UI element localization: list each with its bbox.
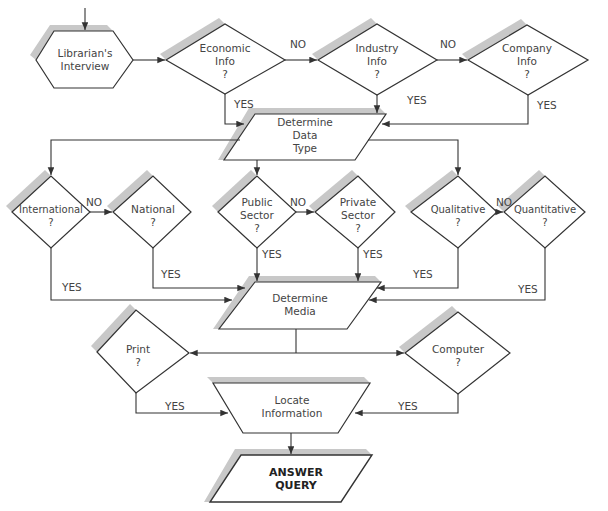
edge-no-international: NO — [86, 196, 102, 208]
edge-yes-private: YES — [363, 248, 383, 260]
edge-yes-international: YES — [62, 281, 82, 293]
edge-yes-public: YES — [262, 248, 282, 260]
locate-label: Locate Information — [252, 394, 332, 420]
data-type-label: Determine Data Type — [275, 116, 335, 155]
edge-yes-national: YES — [161, 268, 181, 280]
edge-yes-industry: YES — [407, 94, 427, 106]
national-label: National ? — [123, 203, 183, 229]
edge-no-economic: NO — [290, 38, 306, 50]
print-label: Print ? — [118, 343, 158, 369]
media-label: Determine Media — [270, 292, 330, 318]
edge-no-qualitative: NO — [496, 196, 512, 208]
edge-yes-quantitative: YES — [518, 283, 538, 295]
public-label: Public Sector ? — [227, 196, 287, 235]
computer-label: Computer ? — [428, 343, 488, 369]
answer-label: ANSWER QUERY — [256, 466, 336, 492]
edge-yes-economic: YES — [234, 98, 254, 110]
edge-yes-computer: YES — [398, 400, 418, 412]
edge-yes-qualitative: YES — [413, 268, 433, 280]
start-label: Librarian's Interview — [55, 47, 115, 73]
private-label: Private Sector ? — [328, 196, 388, 235]
edge-no-industry: NO — [440, 38, 456, 50]
edge-no-public: NO — [290, 196, 306, 208]
quantitative-label: Quantitative ? — [506, 203, 584, 229]
international-label: International ? — [11, 203, 91, 229]
edge-yes-company: YES — [537, 99, 557, 111]
edge-yes-print: YES — [165, 400, 185, 412]
economic-label: Economic Info ? — [195, 42, 255, 81]
company-label: Company Info ? — [497, 42, 557, 81]
industry-label: Industry Info ? — [347, 42, 407, 81]
qualitative-label: Qualitative ? — [420, 203, 496, 229]
